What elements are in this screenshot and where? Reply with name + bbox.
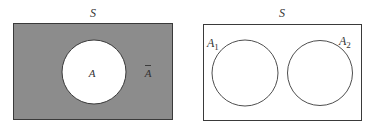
disjoint-diagram: S A1 A2 bbox=[204, 6, 362, 121]
universe-label-right: S bbox=[279, 6, 285, 20]
complement-label: A bbox=[144, 67, 152, 79]
complement-diagram: S A A bbox=[14, 6, 173, 120]
set-a-label: A bbox=[88, 67, 96, 79]
venn-diagrams: S A A S A1 A2 bbox=[0, 0, 373, 132]
universe-label-left: S bbox=[90, 6, 96, 20]
universe-box bbox=[204, 25, 362, 121]
